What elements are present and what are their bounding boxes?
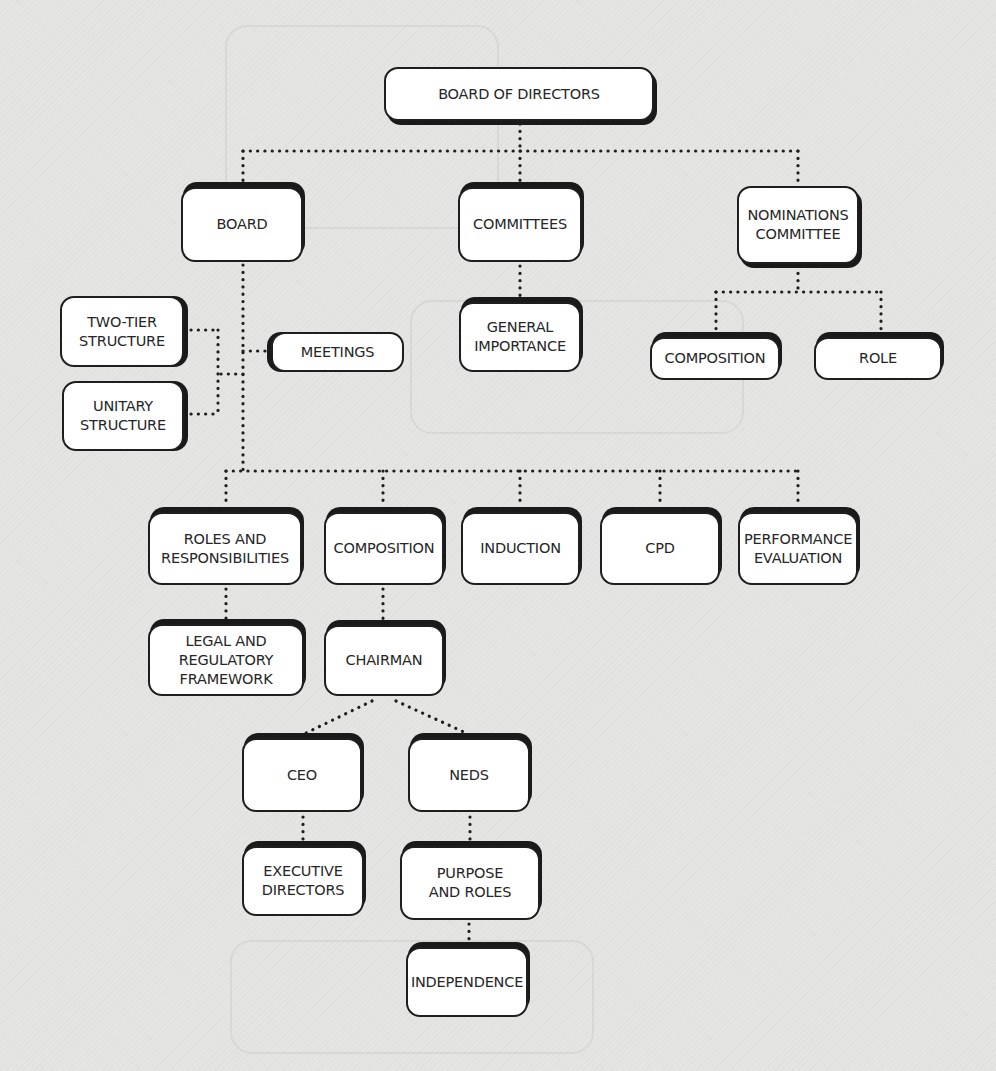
node-board-of-directors: BOARD OF DIRECTORS	[384, 67, 654, 121]
node-composition: COMPOSITION	[324, 512, 444, 585]
node-nominations-composition: COMPOSITION	[650, 337, 780, 380]
node-label: LEGAL AND REGULATORY FRAMEWORK	[179, 632, 274, 689]
node-label: TWO-TIER STRUCTURE	[79, 313, 165, 351]
node-cpd: CPD	[600, 512, 720, 585]
node-purpose-and-roles: PURPOSE AND ROLES	[400, 846, 540, 920]
node-unitary-structure: UNITARY STRUCTURE	[62, 381, 184, 451]
node-label: UNITARY STRUCTURE	[80, 397, 166, 435]
node-committees: COMMITTEES	[458, 187, 582, 262]
node-label: BOARD OF DIRECTORS	[438, 85, 600, 104]
node-general-importance: GENERAL IMPORTANCE	[459, 302, 581, 372]
node-two-tier-structure: TWO-TIER STRUCTURE	[60, 296, 184, 367]
node-chairman: CHAIRMAN	[324, 625, 444, 696]
node-label: COMPOSITION	[665, 349, 766, 368]
node-executive-directors: EXECUTIVE DIRECTORS	[242, 846, 364, 916]
node-label: COMPOSITION	[334, 539, 435, 558]
node-label: INDEPENDENCE	[411, 973, 523, 992]
node-label: GENERAL IMPORTANCE	[474, 318, 566, 356]
connector-chairman-ceo	[306, 701, 372, 733]
node-label: NOMINATIONS COMMITTEE	[747, 206, 848, 244]
connector-chairman-neds	[396, 701, 466, 733]
node-neds: NEDS	[408, 738, 530, 812]
node-induction: INDUCTION	[461, 512, 580, 585]
node-label: CPD	[645, 539, 674, 558]
node-label: CHAIRMAN	[346, 651, 423, 670]
node-label: ROLE	[859, 349, 897, 368]
node-label: MEETINGS	[301, 343, 375, 362]
node-ceo: CEO	[242, 738, 362, 812]
node-legal-and-regulatory-framework: LEGAL AND REGULATORY FRAMEWORK	[148, 624, 304, 696]
node-nominations-role: ROLE	[814, 337, 942, 380]
node-meetings: MEETINGS	[271, 332, 404, 372]
node-label: INDUCTION	[480, 539, 561, 558]
node-label: CEO	[287, 766, 317, 785]
node-nominations-committee: NOMINATIONS COMMITTEE	[737, 186, 859, 264]
node-board: BOARD	[181, 187, 303, 262]
node-roles-and-responsibilities: ROLES AND RESPONSIBILITIES	[148, 512, 302, 585]
node-independence: INDEPENDENCE	[406, 947, 528, 1017]
node-performance-evaluation: PERFORMANCE EVALUATION	[738, 512, 858, 585]
node-label: PERFORMANCE EVALUATION	[744, 530, 852, 568]
node-label: NEDS	[449, 766, 489, 785]
node-label: PURPOSE AND ROLES	[429, 864, 512, 902]
node-label: COMMITTEES	[473, 215, 567, 234]
node-label: BOARD	[216, 215, 267, 234]
node-label: EXECUTIVE DIRECTORS	[262, 862, 345, 900]
node-label: ROLES AND RESPONSIBILITIES	[161, 530, 289, 568]
